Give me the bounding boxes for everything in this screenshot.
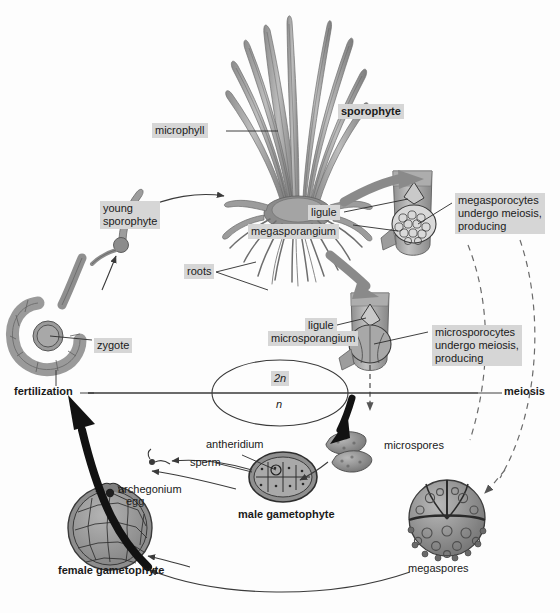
label-egg: egg <box>126 495 144 508</box>
label-megasporangium: megasporangium <box>248 224 339 239</box>
label-sperm: sperm <box>190 456 221 469</box>
label-microsporangium: microsporangium <box>268 331 358 346</box>
life-cycle-diagram: microphyll sporophyte young sporophyte r… <box>0 0 560 613</box>
label-meiosis: meiosis <box>504 385 545 398</box>
label-microsporocytes: microsporocytes undergo meiosis, produci… <box>432 325 522 366</box>
label-megaspores: megaspores <box>408 562 469 575</box>
ploidy-axis <box>88 360 478 426</box>
label-megasporocytes: megasporocytes undergo meiosis, producin… <box>455 193 545 234</box>
label-fertilization: fertilization <box>14 385 73 398</box>
megaspores-illustration <box>408 480 486 561</box>
label-male-gametophyte: male gametophyte <box>238 508 335 521</box>
diagram-artwork <box>0 0 560 613</box>
label-young-sporophyte: young sporophyte <box>100 201 160 229</box>
label-roots: roots <box>184 264 214 279</box>
label-ploidy-diploid: 2n <box>271 371 289 386</box>
label-sporophyte: sporophyte <box>338 104 404 119</box>
label-microphyll: microphyll <box>152 123 208 138</box>
label-zygote: zygote <box>94 338 132 353</box>
label-microspores: microspores <box>384 439 444 452</box>
zygote-embryo-illustration <box>10 258 82 372</box>
label-ploidy-haploid: n <box>276 398 282 411</box>
label-antheridium: antheridium <box>206 438 263 451</box>
sperm-illustration <box>148 449 170 465</box>
meiosis-dashed-arcs <box>468 240 535 493</box>
sporophyte-plant-illustration <box>223 16 373 286</box>
label-female-gametophyte: female gametophyte <box>58 564 164 577</box>
label-ligule-upper: ligule <box>308 205 340 220</box>
